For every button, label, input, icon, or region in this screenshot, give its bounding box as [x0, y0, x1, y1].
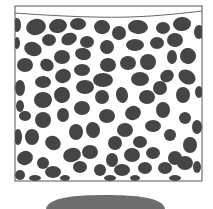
- pebble: [169, 175, 181, 181]
- pebble: [167, 33, 183, 47]
- pebble: [104, 175, 116, 181]
- pebble: [19, 111, 31, 121]
- pebble: [22, 39, 44, 58]
- pebble: [123, 104, 143, 123]
- pebble: [127, 19, 148, 35]
- pebble: [156, 102, 170, 118]
- pebble: [45, 166, 61, 178]
- pebble: [193, 161, 201, 173]
- pebble: [94, 164, 106, 176]
- pebble: [172, 16, 191, 32]
- pebble: [57, 108, 69, 122]
- pebble: [60, 175, 70, 181]
- pebble: [59, 31, 78, 48]
- pebble: [15, 149, 35, 168]
- pebble: [124, 148, 140, 162]
- pebble: [140, 54, 156, 70]
- pebble: [38, 56, 56, 73]
- pebble: [17, 58, 33, 72]
- pebble: [69, 124, 83, 140]
- pebbles-group: [13, 16, 204, 181]
- pebble: [37, 157, 49, 169]
- grey-mound: [46, 195, 165, 209]
- pebble: [73, 161, 87, 173]
- pebble: [54, 50, 70, 64]
- pebble: [15, 80, 25, 96]
- pebble: [99, 109, 115, 123]
- pebble: [82, 145, 98, 159]
- pebble: [35, 76, 51, 88]
- pebble: [133, 136, 147, 148]
- pebble: [108, 136, 122, 150]
- pebble: [15, 170, 25, 180]
- pebble: [153, 81, 167, 95]
- pebble: [24, 17, 47, 38]
- pebble: [97, 37, 116, 56]
- pebble: [34, 92, 52, 108]
- pebble: [43, 133, 64, 153]
- pebble: [164, 129, 176, 141]
- pebble: [131, 72, 149, 86]
- pebble: [156, 22, 170, 34]
- pebble: [29, 175, 41, 181]
- pebble: [74, 101, 90, 115]
- pebble: [74, 64, 90, 76]
- pebble: [150, 37, 164, 49]
- pebble: [114, 164, 130, 176]
- pebble: [139, 90, 155, 104]
- pebble: [146, 147, 160, 159]
- pebble: [179, 47, 198, 66]
- pebble: [70, 18, 86, 30]
- pebble: [158, 162, 172, 174]
- pebble: [76, 80, 94, 94]
- pebble: [177, 156, 193, 170]
- pebble: [106, 153, 118, 167]
- pebble: [16, 100, 24, 112]
- pebble: [115, 86, 130, 104]
- pebble: [192, 120, 202, 134]
- pebble: [176, 66, 199, 87]
- pebble: [93, 19, 111, 36]
- pebble: [53, 67, 73, 86]
- pebble: [179, 112, 191, 124]
- pebble: [167, 50, 177, 64]
- water-surface-line: [15, 11, 202, 17]
- pebble: [35, 112, 51, 128]
- pebble: [93, 73, 113, 87]
- pebble-packing-diagram: [0, 0, 213, 209]
- pebble: [80, 36, 94, 48]
- pebble: [120, 56, 136, 70]
- pebble: [126, 39, 144, 51]
- pebble: [74, 47, 92, 62]
- pebble: [145, 120, 161, 132]
- pebble: [183, 137, 197, 153]
- pebble: [25, 129, 39, 145]
- pebble: [42, 34, 56, 46]
- pebble: [95, 90, 109, 104]
- pebble: [112, 26, 126, 40]
- pebble: [130, 175, 140, 181]
- pebble: [176, 87, 190, 103]
- pebble: [48, 18, 68, 35]
- pebble: [13, 18, 21, 32]
- pebble: [85, 121, 102, 139]
- pebble: [53, 86, 72, 105]
- pebble: [138, 162, 152, 174]
- pebble: [117, 123, 133, 137]
- pebble: [100, 58, 116, 72]
